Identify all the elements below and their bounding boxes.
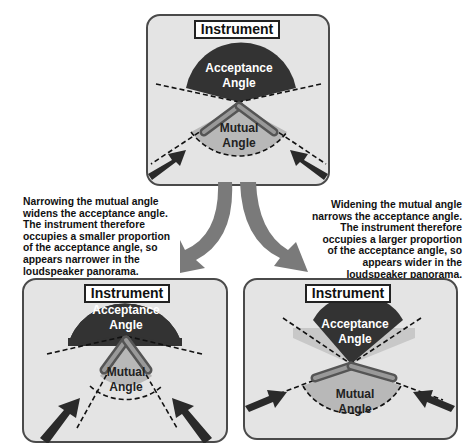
- svg-text:Acceptance: Acceptance: [321, 317, 389, 331]
- right-mic-arrow-icon: [290, 150, 328, 180]
- svg-text:Angle: Angle: [222, 136, 256, 150]
- svg-text:Acceptance: Acceptance: [92, 303, 160, 317]
- left-mic-arrow-icon: [245, 390, 287, 412]
- right-mic-arrow-icon: [413, 390, 455, 412]
- left-caption: Narrowing the mutual angle widens the ac…: [23, 196, 203, 277]
- svg-text:Mutual: Mutual: [336, 387, 375, 401]
- svg-text:Angle: Angle: [338, 332, 372, 346]
- svg-text:Angle: Angle: [338, 402, 372, 416]
- instrument-label: Instrument: [305, 284, 391, 303]
- instrument-label: Instrument: [84, 284, 170, 303]
- left-mic-arrow-icon: [40, 398, 80, 443]
- svg-text:Mutual: Mutual: [107, 365, 146, 379]
- acceptance-label: Acceptance: [205, 61, 273, 75]
- svg-text:Angle: Angle: [222, 76, 256, 90]
- top-diagram: Acceptance Angle Mutual Angle: [146, 14, 330, 186]
- mutual-label: Mutual: [220, 121, 259, 135]
- instrument-label: Instrument: [194, 20, 280, 39]
- left-mic-arrow-icon: [148, 150, 186, 180]
- svg-text:Angle: Angle: [109, 318, 143, 332]
- right-caption: Widening the mutual angle narrows the ac…: [290, 199, 462, 280]
- svg-text:Angle: Angle: [109, 380, 143, 394]
- right-mic-arrow-icon: [172, 398, 212, 443]
